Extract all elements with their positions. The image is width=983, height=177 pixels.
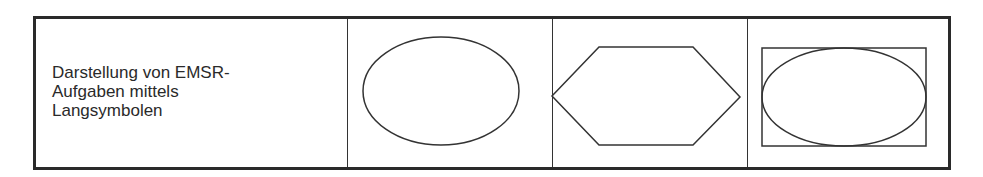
symbol-cell-hexagon	[552, 19, 747, 167]
row-label: Darstellung von EMSR- Aufgaben mittels L…	[52, 63, 342, 120]
symbol-table: Darstellung von EMSR- Aufgaben mittels L…	[33, 16, 951, 170]
symbol-cell-ellipse-in-rectangle	[747, 19, 948, 167]
label-cell: Darstellung von EMSR- Aufgaben mittels L…	[36, 19, 347, 167]
symbol-cell-ellipse	[347, 19, 552, 167]
